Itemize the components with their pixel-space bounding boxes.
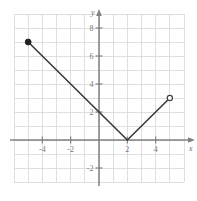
y-axis-label: y [90, 8, 95, 17]
x-tick-label: -4 [39, 145, 46, 154]
x-tick-label: -2 [67, 145, 74, 154]
y-tick-label: 6 [90, 52, 94, 61]
y-tick-label: 2 [90, 108, 94, 117]
y-tick-label: -2 [87, 164, 94, 173]
y-tick-label: 4 [90, 80, 94, 89]
x-axis-label: x [188, 144, 193, 153]
open-endpoint-circle [167, 95, 172, 100]
x-tick-label: 2 [125, 145, 129, 154]
x-tick-label: 4 [154, 145, 158, 154]
y-tick-label: 8 [90, 24, 94, 33]
closed-endpoint-dot [25, 39, 31, 45]
graph-figure: -4-224 -22468 x y [0, 0, 197, 201]
coordinate-plane-chart: -4-224 -22468 x y [0, 0, 197, 201]
